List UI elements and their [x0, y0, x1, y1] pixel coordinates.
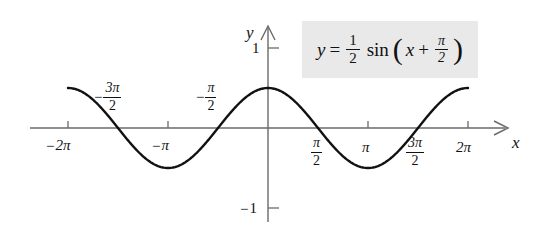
x-tick-value: π: [161, 137, 169, 153]
coefficient-numerator: 1: [346, 33, 360, 50]
phase-fraction: π 2: [435, 34, 448, 65]
fraction: π2: [205, 81, 216, 113]
y-tick-value: 1: [249, 200, 257, 216]
minus-sign: −: [196, 90, 205, 105]
equation-expression: y = 1 2 sin ( x + π 2 ): [317, 33, 463, 66]
y-tick-label-neg1: −1: [240, 201, 257, 217]
x-tick-label-pi-over-2: π2: [311, 136, 322, 168]
x-tick-label-neg-pi-over-2: −π2: [196, 81, 216, 113]
y-axis-label: y: [246, 24, 254, 41]
coefficient-denominator: 2: [349, 50, 357, 66]
x-tick-label-neg-pi: −π: [152, 138, 169, 154]
fraction: 3π2: [103, 81, 121, 113]
x-tick-value: 2π: [55, 137, 70, 153]
y-axis: [261, 26, 275, 222]
fraction-numerator: π: [311, 136, 322, 153]
trig-graph-figure: y x 1 −1 −2π −3π2 −π −π2 π2 π 3π2 2π y: [0, 0, 554, 233]
x-tick-label-3pi-over-2: 3π2: [406, 136, 424, 168]
plus-sign: +: [417, 39, 430, 61]
x-tick-label-neg-2pi: −2π: [46, 138, 70, 154]
y-tick-label-1: 1: [252, 41, 260, 56]
x-tick-label-2pi: 2π: [456, 140, 471, 155]
fraction: π2: [311, 136, 322, 168]
open-paren: (: [393, 37, 403, 61]
phase-numerator: π: [435, 34, 448, 50]
fraction-denominator: 2: [311, 153, 322, 169]
fraction-denominator: 2: [406, 153, 424, 169]
fraction-numerator: π: [205, 81, 216, 98]
fraction-numerator: 3π: [406, 136, 424, 153]
equation-callout-box: y = 1 2 sin ( x + π 2 ): [302, 21, 478, 78]
x-tick-label-pi: π: [362, 140, 370, 155]
equation-lhs: y: [317, 39, 325, 61]
fraction-denominator: 2: [103, 98, 121, 114]
equals-sign: =: [328, 39, 341, 61]
x-tick-value: 2π: [456, 139, 471, 155]
fraction-numerator: 3π: [103, 81, 121, 98]
minus-sign: −: [94, 90, 103, 105]
sine-function-name: sin: [365, 39, 390, 61]
x-tick-value: π: [362, 139, 370, 155]
x-axis-label: x: [512, 134, 520, 151]
fraction-denominator: 2: [205, 98, 216, 114]
argument-variable: x: [406, 39, 414, 61]
x-tick-label-neg-3pi-over-2: −3π2: [94, 81, 121, 113]
coefficient-fraction: 1 2: [346, 33, 360, 66]
phase-denominator: 2: [438, 50, 445, 65]
x-axis: [30, 121, 508, 135]
close-paren: ): [453, 37, 463, 61]
fraction: 3π2: [406, 136, 424, 168]
